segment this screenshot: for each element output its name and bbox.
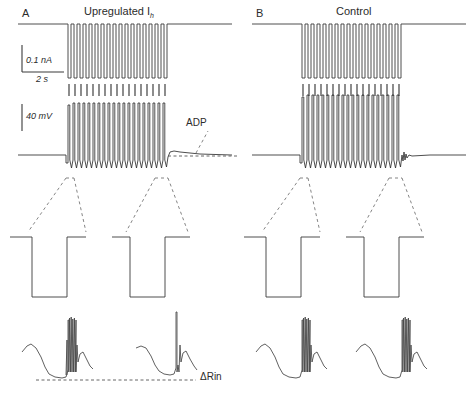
panel-b-voltage-trace	[252, 95, 466, 168]
voltage-scale-label: 40 mV	[26, 112, 52, 121]
current-scale-label: 0.1 nA	[26, 56, 52, 65]
panel-b-magnified-voltage-left	[256, 317, 327, 378]
time-scale-label: 2 s	[36, 75, 48, 84]
figure-canvas: .tr{fill:none;stroke:#3a3a3a;stroke-widt…	[0, 0, 475, 398]
adp-label: ADP	[186, 118, 207, 128]
panel-a-expansion-lines-right	[126, 178, 188, 232]
panel-a-magnified-current-left	[10, 237, 86, 297]
panel-letter-b: B	[256, 8, 263, 19]
panel-a-adp-leader	[196, 131, 208, 153]
panel-b-spike-raster	[303, 84, 399, 96]
panel-b-magnified-current-right	[346, 237, 424, 297]
panel-a-magnified-voltage-left	[22, 317, 93, 378]
panel-a-expansion-lines-left	[28, 178, 86, 232]
panel-a-magnified-current-right	[112, 237, 190, 297]
panel-title-b-main: Control	[336, 5, 371, 17]
figure-root: .tr{fill:none;stroke:#3a3a3a;stroke-widt…	[0, 0, 475, 398]
panel-title-a-main: Upregulated I	[84, 5, 150, 17]
panel-b-expansion-lines-left	[262, 178, 320, 232]
panel-b-magnified-current-left	[244, 237, 320, 297]
panel-b-current-trace	[252, 24, 466, 78]
delta-rin-label: ΔRin	[200, 372, 222, 382]
panel-a-spike-raster	[69, 84, 165, 96]
panel-b-expansion-lines-right	[360, 178, 422, 232]
panel-letter-a: A	[22, 8, 29, 19]
panel-title-b: Control	[336, 6, 371, 19]
panel-a-current-trace	[18, 24, 232, 78]
panel-title-a-subscript: h	[150, 12, 154, 19]
panel-title-a: Upregulated Ih	[84, 6, 154, 19]
panel-a-magnified-voltage-right	[136, 312, 197, 375]
panel-b-magnified-voltage-right	[356, 317, 427, 378]
